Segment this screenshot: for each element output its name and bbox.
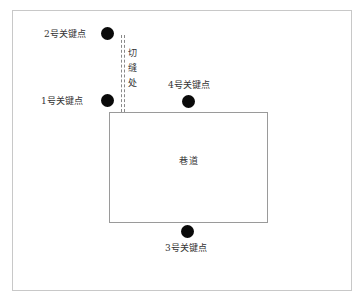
diagram-canvas: 巷道 切 缝 处 2号关键点 1号关键点 4号关键点 3号关键点: [0, 0, 362, 301]
key-point-1-label: 1号关键点: [41, 96, 83, 107]
key-point-1-marker: [101, 94, 114, 107]
key-point-3-label: 3号关键点: [165, 243, 207, 254]
cut-slot-line-right: [124, 35, 125, 112]
cut-slot-char: 切: [127, 46, 137, 61]
key-point-4-label: 4号关键点: [168, 80, 210, 91]
cut-slot-char: 缝: [127, 61, 137, 76]
roadway-label: 巷道: [110, 154, 267, 167]
cut-slot-char: 处: [127, 76, 137, 91]
cut-slot-label: 切 缝 处: [127, 46, 137, 91]
key-point-2-marker: [101, 27, 114, 40]
key-point-3-marker: [181, 225, 194, 238]
cut-slot-line-left: [121, 35, 122, 112]
key-point-4-marker: [182, 95, 195, 108]
roadway-rectangle: 巷道: [109, 112, 268, 223]
key-point-2-label: 2号关键点: [44, 29, 86, 40]
